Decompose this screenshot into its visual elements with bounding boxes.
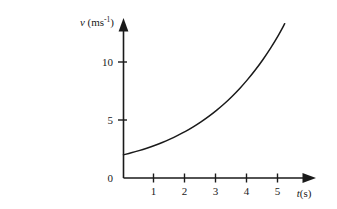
y-axis-title-unit-base: (ms — [85, 16, 104, 29]
x-tick-label-2: 2 — [182, 185, 188, 197]
x-tick-label-3: 3 — [213, 185, 219, 197]
x-axis-title-unit: (s) — [300, 187, 312, 200]
x-axis-title: t(s) — [297, 187, 312, 200]
y-tick-label-0: 0 — [108, 172, 114, 184]
x-tick-label-4: 4 — [244, 185, 250, 197]
y-tick-label-10: 10 — [102, 56, 114, 68]
velocity-time-graph: 0 5 10 1 2 3 4 5 v (ms-1) t(s) — [0, 0, 337, 209]
y-tick-label-5: 5 — [108, 114, 114, 126]
x-tick-label-5: 5 — [275, 185, 281, 197]
x-tick-label-1: 1 — [151, 185, 157, 197]
y-axis-title-unit-close: ) — [110, 16, 114, 29]
